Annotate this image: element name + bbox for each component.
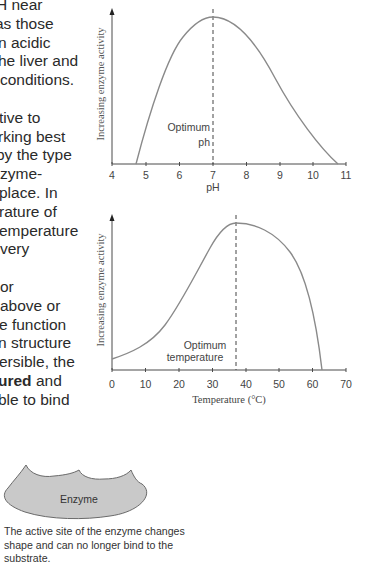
ph-optimum-label: Optimum (167, 121, 210, 133)
ph-tick-label: 7 (210, 169, 216, 181)
temp-tick-label: 0 (109, 378, 115, 390)
temp-optimum-label: temperature (167, 351, 224, 363)
temp-tick-label: 50 (273, 378, 285, 390)
ph-tick-label: 4 (109, 169, 115, 181)
temp-y-axis-label: Increasing enzyme activity (95, 233, 106, 347)
ph-tick-label: 8 (244, 169, 250, 181)
temp-x-axis-label: Temperature (°C) (192, 394, 266, 406)
ph-y-axis-label: Increasing enzyme activity (95, 27, 106, 141)
temp-tick-label: 30 (207, 378, 219, 390)
enzyme-figure: Enzyme (0, 458, 160, 528)
temp-tick-label: 10 (140, 378, 152, 390)
ph-y-axis-arrow-icon (110, 8, 115, 15)
ph-activity-chart: 4 5 6 7 8 9 10 11 pH Increasing enzyme a… (0, 0, 371, 200)
denatured-enzyme-shape (4, 465, 146, 519)
ph-x-axis-label: pH (206, 181, 219, 193)
enzyme-label: Enzyme (60, 493, 98, 505)
temp-optimum-label: Optimum (184, 339, 227, 351)
enzyme-caption: The active site of the enzyme changes sh… (4, 525, 244, 566)
ph-tick-label: 5 (143, 169, 149, 181)
ph-optimum-label: ph (198, 136, 210, 148)
ph-tick-label: 6 (177, 169, 183, 181)
temp-tick-label: 40 (240, 378, 252, 390)
ph-tick-label: 9 (277, 169, 283, 181)
ph-tick-label: 10 (307, 169, 319, 181)
temp-tick-label: 60 (307, 378, 319, 390)
caption-line: The active site of the enzyme changes (4, 525, 244, 539)
temp-y-axis-arrow-icon (110, 214, 115, 221)
caption-line: substrate. (4, 552, 244, 566)
ph-tick-label: 11 (341, 169, 352, 181)
caption-line: shape and can no longer bind to the (4, 539, 244, 553)
temp-tick-label: 20 (173, 378, 185, 390)
temp-tick-label: 70 (340, 378, 352, 390)
temperature-activity-chart: 0 10 20 30 40 50 60 70 Temperature (°C) … (0, 200, 371, 410)
ph-activity-curve (136, 17, 338, 164)
